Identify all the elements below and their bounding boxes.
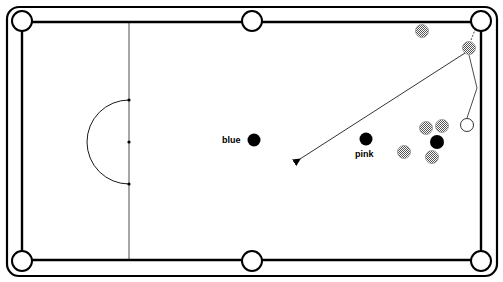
pocket-aim-hint — [471, 30, 475, 40]
red-ball — [436, 120, 449, 133]
blue-ball — [248, 134, 261, 147]
red-ball — [426, 151, 439, 164]
yellow-spot — [127, 182, 130, 185]
pocket-top-middle — [242, 11, 262, 31]
pocket-bottom-left — [12, 251, 32, 271]
blue-label: blue — [222, 135, 241, 145]
snooker-table-diagram: blue pink — [0, 0, 503, 282]
brown-spot — [127, 140, 130, 143]
pocket-top-left — [12, 11, 32, 31]
black-ball — [430, 135, 444, 149]
pocket-top-right — [471, 11, 491, 31]
cue-ball — [461, 119, 474, 132]
red-ball — [463, 42, 476, 55]
red-ball — [398, 146, 411, 159]
pink-ball — [360, 133, 373, 146]
pocket-bottom-right — [471, 251, 491, 271]
baulk-d — [87, 100, 129, 184]
pink-label: pink — [355, 149, 374, 159]
red-ball — [416, 25, 429, 38]
green-spot — [127, 98, 130, 101]
pocket-bottom-middle — [242, 251, 262, 271]
cue-ball-path — [467, 55, 477, 118]
red-ball — [420, 122, 433, 135]
